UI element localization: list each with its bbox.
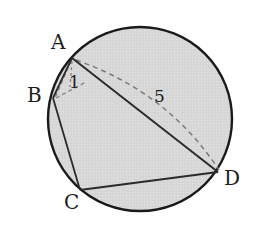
vertex-label-c: C <box>64 192 79 212</box>
geometry-figure: A B C D 1 5 <box>0 0 261 227</box>
vertex-label-d: D <box>224 168 240 188</box>
measure-label-ab: 1 <box>69 74 80 91</box>
figure-canvas <box>0 0 261 227</box>
vertex-label-a: A <box>51 32 65 52</box>
measure-label-ad: 5 <box>154 88 165 105</box>
vertex-label-b: B <box>27 85 42 105</box>
